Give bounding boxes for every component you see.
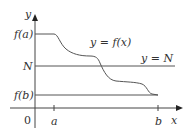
ivt-diagram: y x 0 f(a) N f(b) a b y = f(x) y = N — [0, 0, 195, 134]
curve-label: y = f(x) — [89, 36, 131, 49]
x-tick-label-b: b — [155, 115, 162, 128]
origin-label: 0 — [24, 114, 31, 127]
y-tick-label-n: N — [22, 60, 33, 73]
y-axis-label: y — [24, 8, 32, 21]
x-tick-label-a: a — [51, 115, 58, 128]
line-n-label: y = N — [140, 52, 173, 65]
x-axis-label: x — [171, 114, 178, 127]
y-tick-label-fa: f(a) — [13, 28, 33, 41]
x-axis-arrow-icon — [176, 105, 183, 111]
y-axis-arrow-icon — [32, 14, 38, 21]
y-tick-label-fb: f(b) — [13, 89, 34, 102]
